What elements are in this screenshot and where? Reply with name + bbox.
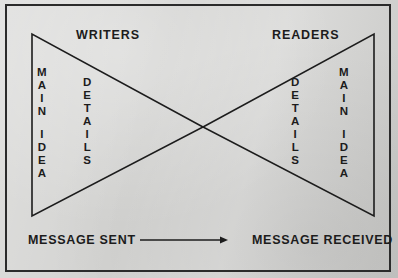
message-received-label: MESSAGE RECEIVED [252,233,393,247]
vertical-text-char: I [86,128,89,141]
writers-main-idea-label: MAINIDEA [37,66,47,180]
vertical-text-char: L [84,141,91,154]
vertical-text-char: T [292,102,299,115]
message-sent-label: MESSAGE SENT [28,233,136,247]
vertical-text-char: A [340,167,348,180]
vertical-text-char: T [84,102,91,115]
vertical-text-char: E [340,154,348,167]
writers-triangle [32,34,203,216]
vertical-text-char: I [40,128,43,141]
vertical-text-char: M [339,66,349,79]
vertical-text-char: E [38,154,46,167]
vertical-text-char: A [83,115,91,128]
vertical-text-char: A [38,79,46,92]
diagram-canvas: WRITERS READERS MAINIDEA DETAILS DETAILS… [0,0,398,278]
vertical-text-char: D [340,141,348,154]
writers-heading: WRITERS [76,28,140,42]
vertical-text-char: I [342,92,345,105]
vertical-text-char: N [38,105,46,118]
vertical-text-char: E [83,89,91,102]
vertical-text-char: D [83,76,91,89]
vertical-text-char: A [340,79,348,92]
vertical-text-char: A [291,115,299,128]
vertical-text-char: E [291,89,299,102]
readers-heading: READERS [272,28,339,42]
vertical-text-char: I [342,128,345,141]
vertical-text-char: S [291,154,299,167]
vertical-text-char: A [38,167,46,180]
message-flow-arrow [140,236,228,243]
vertical-text-char: N [340,105,348,118]
vertical-text-char: M [37,66,47,79]
vertical-text-char: S [83,154,91,167]
readers-details-label: DETAILS [291,76,299,167]
vertical-text-char: D [291,76,299,89]
readers-main-idea-label: MAINIDEA [339,66,349,180]
writers-details-label: DETAILS [83,76,91,167]
vertical-text-char: I [294,128,297,141]
vertical-text-char: I [40,92,43,105]
vertical-text-char: L [292,141,299,154]
vertical-text-char: D [38,141,46,154]
